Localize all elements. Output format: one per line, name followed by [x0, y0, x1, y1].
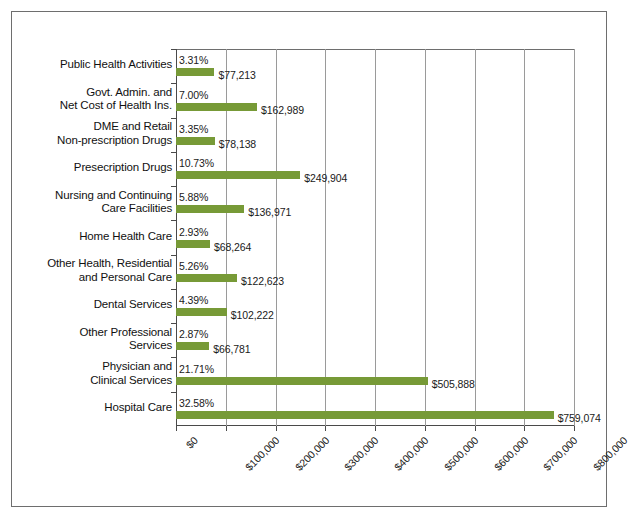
- bar-value-label: $77,213: [218, 69, 255, 81]
- x-axis-tick-label: $0: [183, 434, 200, 451]
- gridline: [574, 49, 575, 426]
- category-tick: [171, 220, 176, 221]
- category-label-line: Services: [12, 339, 172, 353]
- bar-value-label: $68,264: [214, 241, 251, 253]
- bar[interactable]: [176, 171, 300, 179]
- x-axis-tick-label: $300,000: [342, 434, 381, 473]
- bar-percent-label: 5.88%: [179, 191, 208, 203]
- category-label-line: DME and Retail: [12, 120, 172, 134]
- category-label-line: Other Professional: [12, 326, 172, 340]
- bar-percent-label: 7.00%: [179, 89, 208, 101]
- bar-row: $68,2642.93%: [176, 220, 574, 254]
- bar-value-label: $505,888: [432, 378, 475, 390]
- category-label: Hospital Care: [12, 401, 172, 415]
- category-tick: [171, 49, 176, 50]
- bar-row: $122,6235.26%: [176, 255, 574, 289]
- bar[interactable]: [176, 137, 215, 145]
- bar-row: $505,88821.71%: [176, 357, 574, 391]
- chart-frame: Public Health ActivitiesGovt. Admin. and…: [11, 11, 607, 507]
- bar[interactable]: [176, 68, 214, 76]
- bar-percent-label: 32.58%: [179, 397, 214, 409]
- bar[interactable]: [176, 274, 237, 282]
- category-tick: [171, 392, 176, 393]
- bar-value-label: $102,222: [231, 309, 274, 321]
- bar-percent-label: 10.73%: [179, 157, 214, 169]
- bar[interactable]: [176, 103, 257, 111]
- bar[interactable]: [176, 205, 244, 213]
- x-axis-tick-label: $700,000: [541, 434, 580, 473]
- category-tick: [171, 152, 176, 153]
- bar-value-label: $759,074: [558, 412, 601, 424]
- x-axis-tick: [325, 426, 326, 431]
- x-axis-tick: [176, 426, 177, 431]
- bar-row: $162,9897.00%: [176, 83, 574, 117]
- plot-area: $77,2133.31%$162,9897.00%$78,1383.35%$24…: [176, 49, 574, 426]
- category-tick: [171, 255, 176, 256]
- category-label: Dental Services: [12, 298, 172, 312]
- category-label: Other ProfessionalServices: [12, 326, 172, 353]
- x-axis-tick-label: $200,000: [292, 434, 331, 473]
- bar-percent-label: 3.31%: [179, 54, 208, 66]
- x-axis-tick: [574, 426, 575, 431]
- bar[interactable]: [176, 342, 209, 350]
- category-label-line: Govt. Admin. and: [12, 86, 172, 100]
- x-axis-tick: [475, 426, 476, 431]
- x-axis-tick-label: $600,000: [491, 434, 530, 473]
- category-label: Physician andClinical Services: [12, 360, 172, 387]
- category-label-line: Clinical Services: [12, 374, 172, 388]
- bar-percent-label: 4.39%: [179, 294, 208, 306]
- bar-value-label: $122,623: [241, 275, 284, 287]
- category-label-line: Net Cost of Health Ins.: [12, 99, 172, 113]
- category-tick: [171, 357, 176, 358]
- x-axis-tick-label: $800,000: [591, 434, 630, 473]
- bar-value-label: $249,904: [304, 172, 347, 184]
- category-label-line: Home Health Care: [12, 230, 172, 244]
- category-axis-labels: Public Health ActivitiesGovt. Admin. and…: [12, 49, 172, 426]
- category-label: Other Health, Residentialand Personal Ca…: [12, 257, 172, 284]
- category-label-line: Public Health Activities: [12, 58, 172, 72]
- bar-row: $78,1383.35%: [176, 118, 574, 152]
- bar-value-label: $162,989: [261, 104, 304, 116]
- bar[interactable]: [176, 377, 428, 385]
- bar-row: $759,07432.58%: [176, 392, 574, 426]
- bar-row: $77,2133.31%: [176, 49, 574, 83]
- category-label-line: and Personal Care: [12, 271, 172, 285]
- bar[interactable]: [176, 308, 227, 316]
- category-tick: [171, 83, 176, 84]
- x-axis-tick: [425, 426, 426, 431]
- bar-percent-label: 2.87%: [179, 328, 208, 340]
- bar-value-label: $136,971: [248, 206, 291, 218]
- category-label-line: Dental Services: [12, 298, 172, 312]
- x-axis-tick: [226, 426, 227, 431]
- bar-row: $102,2224.39%: [176, 289, 574, 323]
- category-label: Govt. Admin. andNet Cost of Health Ins.: [12, 86, 172, 113]
- bar-percent-label: 5.26%: [179, 260, 208, 272]
- bar[interactable]: [176, 240, 210, 248]
- category-label-line: Care Facilities: [12, 202, 172, 216]
- category-label: DME and RetailNon-prescription Drugs: [12, 120, 172, 147]
- x-axis-tick: [375, 426, 376, 431]
- category-tick: [171, 289, 176, 290]
- category-label-line: Other Health, Residential: [12, 257, 172, 271]
- x-axis-tick-label: $500,000: [441, 434, 480, 473]
- x-axis: $0$100,000$200,000$300,000$400,000$500,0…: [176, 426, 574, 506]
- category-label-line: Non-prescription Drugs: [12, 134, 172, 148]
- bar-percent-label: 2.93%: [179, 226, 208, 238]
- bar-row: $136,9715.88%: [176, 186, 574, 220]
- category-label: Presecription Drugs: [12, 161, 172, 175]
- x-axis-tick: [524, 426, 525, 431]
- x-axis-tick-label: $100,000: [242, 434, 281, 473]
- category-tick: [171, 186, 176, 187]
- category-label: Public Health Activities: [12, 58, 172, 72]
- x-axis-tick-label: $400,000: [392, 434, 431, 473]
- bar-row: $249,90410.73%: [176, 152, 574, 186]
- category-label-line: Hospital Care: [12, 401, 172, 415]
- x-axis-tick: [276, 426, 277, 431]
- category-label-line: Nursing and Continuing: [12, 189, 172, 203]
- bar-value-label: $66,781: [213, 343, 250, 355]
- bar-value-label: $78,138: [219, 138, 256, 150]
- category-tick: [171, 323, 176, 324]
- bar-row: $66,7812.87%: [176, 323, 574, 357]
- bar[interactable]: [176, 411, 554, 419]
- category-label: Home Health Care: [12, 230, 172, 244]
